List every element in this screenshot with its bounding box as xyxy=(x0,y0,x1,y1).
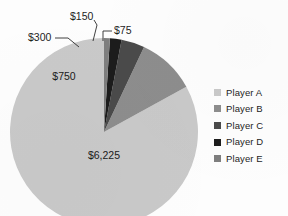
pie-slice-player-a[interactable] xyxy=(10,38,198,216)
legend-swatch-player-e xyxy=(214,155,221,162)
pie-slices-group xyxy=(10,38,198,216)
legend-label-player-e: Player E xyxy=(226,154,263,164)
slice-value-label-player-a: $6,225 xyxy=(88,149,120,161)
legend-item-player-c[interactable]: Player C xyxy=(214,117,288,134)
legend-label-player-d: Player D xyxy=(226,137,263,147)
legend-swatch-player-d xyxy=(214,139,221,146)
legend-item-player-b[interactable]: Player B xyxy=(214,101,288,118)
slice-value-label-player-d: $150 xyxy=(70,10,94,22)
slice-value-label-player-e: $75 xyxy=(114,24,132,36)
slice-value-label-player-c: $300 xyxy=(28,31,52,43)
legend-label-player-b: Player B xyxy=(226,104,263,114)
legend-item-player-e[interactable]: Player E xyxy=(214,150,288,167)
legend-label-player-a: Player A xyxy=(226,88,262,98)
legend-swatch-player-b xyxy=(214,105,221,112)
pie-chart-figure: $6,225$750$300$150$75 Player A Player B … xyxy=(0,0,288,216)
legend-label-player-c: Player C xyxy=(226,121,263,131)
legend-swatch-player-a xyxy=(214,89,221,96)
slice-value-label-player-b: $750 xyxy=(52,70,76,82)
legend-item-player-d[interactable]: Player D xyxy=(214,134,288,151)
leader-line-player-d xyxy=(93,20,97,41)
chart-legend: Player A Player B Player C Player D Play… xyxy=(214,84,288,167)
legend-item-player-a[interactable]: Player A xyxy=(214,84,288,101)
legend-swatch-player-c xyxy=(214,122,221,129)
